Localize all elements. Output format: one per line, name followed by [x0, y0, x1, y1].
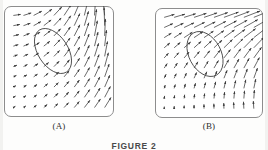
panel-a-ellipse — [27, 22, 79, 80]
panel-a-label: (A) — [0, 121, 118, 131]
figure-root: (A) (B) FIGURE 2 — [0, 0, 268, 150]
panel-b — [155, 8, 263, 118]
panel-a-vector-field — [4, 6, 114, 117]
figure-caption: FIGURE 2 — [0, 141, 268, 150]
panel-b-vector-field — [155, 8, 263, 118]
panel-a — [4, 6, 114, 117]
panel-b-label: (B) — [150, 121, 268, 131]
